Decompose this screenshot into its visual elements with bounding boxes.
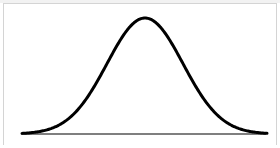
bell-curve [22,18,267,133]
bell-curve-diagram [0,0,280,148]
